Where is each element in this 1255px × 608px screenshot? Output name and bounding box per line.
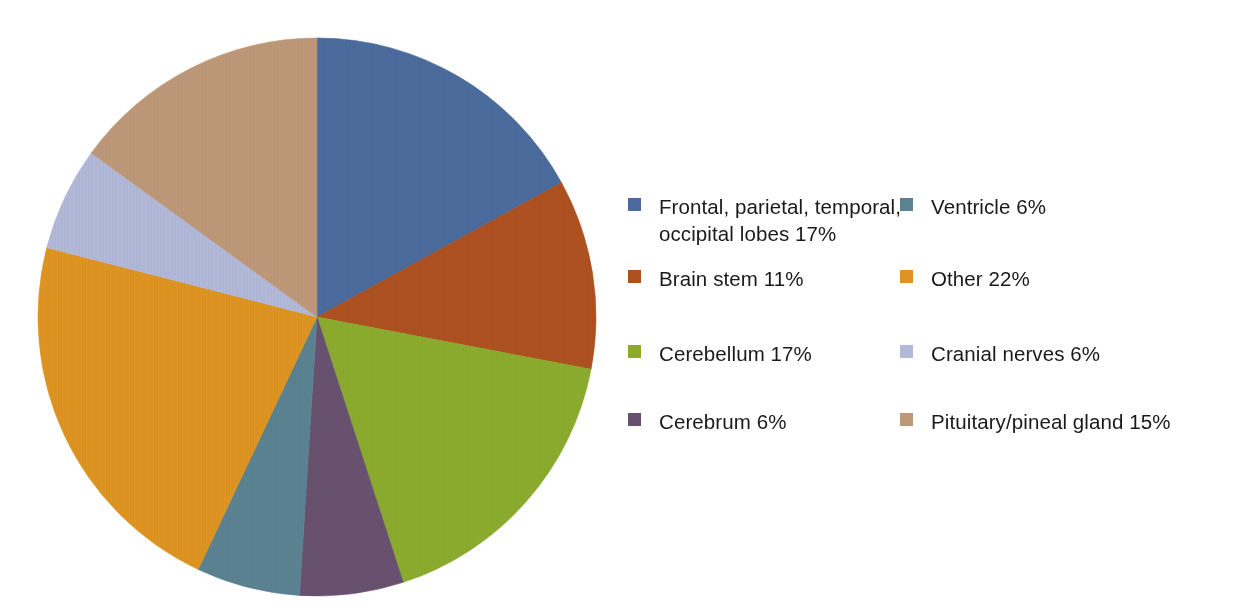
legend-label-ventricle: Ventricle 6% [931,193,1046,220]
legend-item-cranial-nerves[interactable]: Cranial nerves 6% [900,340,1100,367]
legend-item-lobes[interactable]: Frontal, parietal, temporal, occipital l… [628,193,901,247]
legend-swatch-pituitary [900,413,913,426]
legend-item-ventricle[interactable]: Ventricle 6% [900,193,1046,220]
legend-swatch-brain-stem [628,270,641,283]
legend-label-pituitary: Pituitary/pineal gland 15% [931,408,1171,435]
legend-label-cerebellum: Cerebellum 17% [659,340,812,367]
legend-label-other: Other 22% [931,265,1030,292]
legend-label-lobes: Frontal, parietal, temporal, occipital l… [659,193,901,247]
legend-item-cerebellum[interactable]: Cerebellum 17% [628,340,812,367]
chart-legend: Frontal, parietal, temporal, occipital l… [628,193,1243,433]
legend-item-brain-stem[interactable]: Brain stem 11% [628,265,804,292]
legend-item-pituitary[interactable]: Pituitary/pineal gland 15% [900,408,1171,435]
legend-item-cerebrum[interactable]: Cerebrum 6% [628,408,787,435]
legend-swatch-other [900,270,913,283]
legend-label-cerebrum: Cerebrum 6% [659,408,787,435]
pie-chart-figure: Frontal, parietal, temporal, occipital l… [0,0,1255,608]
legend-swatch-ventricle [900,198,913,211]
legend-item-other[interactable]: Other 22% [900,265,1030,292]
legend-swatch-cerebrum [628,413,641,426]
legend-swatch-cerebellum [628,345,641,358]
legend-swatch-lobes [628,198,641,211]
legend-label-cranial-nerves: Cranial nerves 6% [931,340,1100,367]
pie-chart-graphic [37,37,597,597]
pie-slice-group [38,38,596,596]
legend-label-brain-stem: Brain stem 11% [659,265,804,292]
pie-svg [37,37,597,597]
legend-swatch-cranial-nerves [900,345,913,358]
